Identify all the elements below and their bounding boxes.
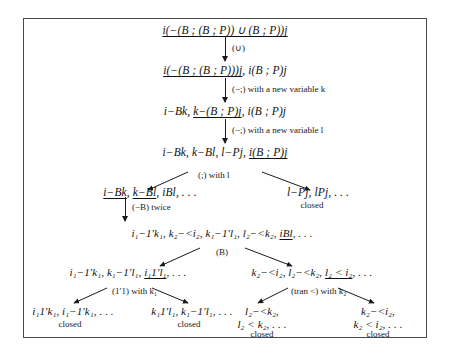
- node-leaf-c-line1: l₂−<k₂,: [237, 305, 286, 318]
- closed-leaf-a: closed: [59, 319, 82, 329]
- node-row5-left: i−Bk, k−Bl, iBl, . . .: [103, 186, 196, 199]
- node-row7-left-prefix: i₁−1′k₁, k₁−1′l₁,: [70, 266, 145, 278]
- rule-neg-semi-k: (−;) with a new variable k: [232, 84, 325, 94]
- figure-canvas: i(−(B ; (B ; P)) ∪ (B ; P))j (∪) i(−(B ;…: [0, 0, 451, 355]
- closed-leaf-d: closed: [367, 329, 390, 339]
- node-row7-right-underlined: l₂ < i₂: [325, 266, 352, 278]
- arrow-n3-n4: [225, 119, 226, 143]
- node-leaf-c: l₂−<k₂, l₂ < k₂, . . .: [237, 305, 286, 330]
- node-row2-rest: , i(B ; P)j: [242, 64, 287, 76]
- node-row5-left-u1: i−Bk: [103, 186, 126, 198]
- node-row6-prefix: i₁−1′k₁, k₂−<i₂, k₁−1′l₁, l₂−<k₂,: [131, 227, 279, 239]
- node-row4: i−Bk, k−Bl, l−Pj, i(B ; P)j: [163, 146, 288, 159]
- node-root-text: i(−(B ; (B ; P)) ∪ (B ; P))j: [162, 24, 287, 36]
- node-row7-left-underlined: i₁1′l₁: [144, 266, 166, 278]
- node-leaf-b-text: k₁1′l₁, k₁−1′l₁, . . .: [151, 305, 232, 317]
- node-row2: i(−(B ; (B ; P)))j, i(B ; P)j: [163, 64, 287, 77]
- node-row5-left-u2: k−Bl: [133, 186, 156, 198]
- node-row3-prefix: i−Bk,: [164, 105, 193, 117]
- rule-one-prime-one: (1′1) with k₁: [112, 286, 157, 296]
- node-row2-underlined: i(−(B ; (B ; P)))j: [163, 64, 242, 76]
- closed-row5-right: closed: [301, 200, 324, 210]
- node-row4-underlined: i(B ; P)j: [249, 146, 288, 158]
- node-leaf-a-text: i₁1′k₁, i₁−1′k₁, . . .: [32, 305, 113, 317]
- node-row5-right: l−Pj, lPj, . . .: [287, 186, 349, 199]
- rule-semi-l: (;) with l: [198, 170, 230, 180]
- node-row6: i₁−1′k₁, k₂−<i₂, k₁−1′l₁, l₂−<k₂, iBl, .…: [131, 227, 312, 240]
- node-leaf-d: k₂−<i₂, k₂ < i₂, . . .: [353, 305, 402, 330]
- node-row7-right: k₂−<i₂, l₂−<k₂, l₂ < i₂, . . .: [252, 266, 373, 279]
- node-row7-right-rest: , . . .: [352, 266, 372, 278]
- arrow-n1-n2: [225, 37, 226, 61]
- arrow-n5L-n6: [125, 197, 126, 221]
- node-row5-left-rest: , iBl, . . .: [156, 186, 197, 198]
- node-row6-rest: , . . .: [293, 227, 313, 239]
- closed-leaf-b: closed: [178, 319, 201, 329]
- node-row3-rest: , i(B ; P)j: [242, 105, 287, 117]
- rule-negB-twice: (−B) twice: [132, 202, 171, 212]
- rule-tran-lt: (tran <) with k₂: [291, 286, 346, 296]
- closed-leaf-c: closed: [251, 329, 274, 339]
- node-leaf-a: i₁1′k₁, i₁−1′k₁, . . .: [32, 305, 113, 318]
- node-leaf-b: k₁1′l₁, k₁−1′l₁, . . .: [151, 305, 232, 318]
- node-root: i(−(B ; (B ; P)) ∪ (B ; P))j: [162, 24, 287, 37]
- node-row3: i−Bk, k−(B ; P)j, i(B ; P)j: [164, 105, 286, 118]
- node-leaf-d-line1: k₂−<i₂,: [353, 305, 402, 318]
- node-row3-underlined: k−(B ; P)j: [193, 105, 241, 117]
- node-row7-left: i₁−1′k₁, k₁−1′l₁, i₁1′l₁, . . .: [70, 266, 187, 279]
- rule-union: (∪): [232, 43, 245, 53]
- node-row4-prefix: i−Bk, k−Bl, l−Pj,: [163, 146, 249, 158]
- node-row5-right-text: l−Pj, lPj, . . .: [287, 186, 349, 198]
- rule-neg-semi-l: (−;) with a new variable l: [232, 125, 323, 135]
- node-row6-underlined: iBl: [280, 227, 293, 239]
- arrow-n2-n3: [225, 78, 226, 102]
- node-row7-left-rest: , . . .: [166, 266, 186, 278]
- node-row7-right-prefix: k₂−<i₂, l₂−<k₂,: [252, 266, 325, 278]
- rule-B: (B): [216, 247, 228, 257]
